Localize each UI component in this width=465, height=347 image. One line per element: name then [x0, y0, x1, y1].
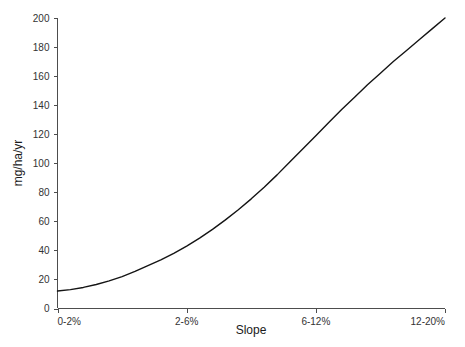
chart-background [0, 0, 465, 347]
y-tick-label: 120 [33, 129, 50, 140]
x-tick-label: 0-2% [58, 316, 81, 327]
y-tick-label: 140 [33, 100, 50, 111]
y-tick-label: 180 [33, 42, 50, 53]
y-tick-label: 200 [33, 13, 50, 24]
y-tick-label: 160 [33, 71, 50, 82]
chart-figure: 020406080100120140160180200 0-2%2-6%6-12… [0, 0, 465, 347]
x-tick-label: 12-20% [411, 316, 446, 327]
y-axis-title: mg/ha/yr [11, 140, 25, 187]
y-tick-label: 100 [33, 158, 50, 169]
line-chart-canvas: 020406080100120140160180200 0-2%2-6%6-12… [0, 0, 465, 347]
y-tick-label: 40 [38, 245, 50, 256]
y-tick-label: 20 [38, 274, 50, 285]
y-tick-label: 60 [38, 216, 50, 227]
y-tick-label: 80 [38, 187, 50, 198]
y-tick-label: 0 [44, 303, 50, 314]
x-tick-label: 2-6% [175, 316, 198, 327]
x-tick-label: 6-12% [301, 316, 330, 327]
x-axis-title: Slope [236, 323, 267, 337]
